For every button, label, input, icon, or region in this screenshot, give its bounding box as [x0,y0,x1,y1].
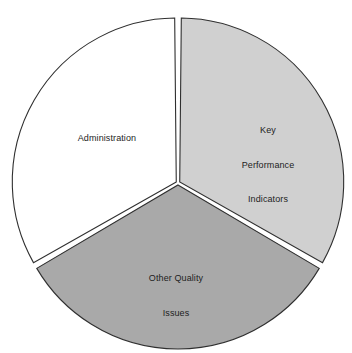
pie-chart-figure: Administration Key Performance Indicator… [0,0,352,353]
pie-chart-svg [0,0,352,353]
